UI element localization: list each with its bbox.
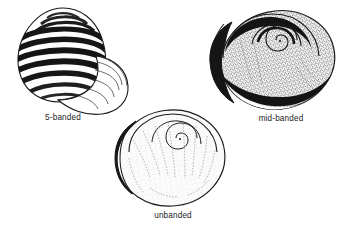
- unbanded-shell-body: [111, 103, 231, 213]
- caption-unbanded: unbanded: [154, 211, 192, 221]
- specimen-mid-banded: [210, 0, 343, 120]
- caption-mid-banded: mid-banded: [259, 114, 304, 124]
- caption-five-banded: 5-banded: [45, 113, 81, 123]
- figure-container: 5-banded mid-banded unbanded: [0, 0, 343, 232]
- specimen-unbanded: [111, 103, 231, 213]
- specimen-five-banded: [14, 8, 128, 114]
